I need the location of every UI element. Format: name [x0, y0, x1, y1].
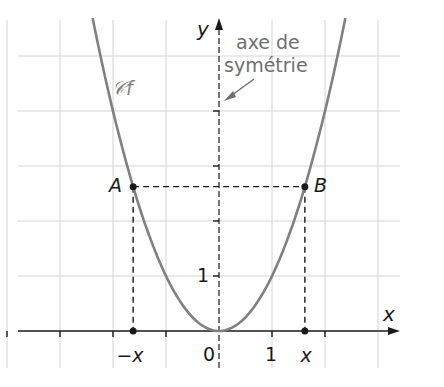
x-tick-label-1: 1 — [265, 343, 277, 365]
y-axis-arrow-icon — [215, 18, 223, 30]
minus-x-label: −x — [116, 344, 144, 366]
y-axis-label: y — [196, 17, 210, 41]
axes — [7, 18, 400, 368]
point-plus-x — [301, 328, 308, 335]
curve-label: 𝒞f — [112, 77, 136, 99]
point-A — [130, 183, 137, 190]
x-axis-label: x — [382, 302, 395, 326]
point-A-label: A — [107, 174, 122, 196]
point-B-label: B — [314, 174, 327, 196]
grid — [7, 20, 400, 368]
annotation-line-1: axe de — [236, 31, 300, 53]
annotation-arrowhead-icon — [224, 91, 236, 101]
point-minus-x — [130, 328, 137, 335]
point-B — [301, 183, 308, 190]
x-axis-arrow-icon — [388, 327, 400, 335]
parabola-figure: 𝒞f y x 0 1 1 A B −x x axe de symétrie — [0, 0, 444, 387]
y-tick-label-1: 1 — [197, 264, 209, 286]
x-label: x — [299, 344, 312, 366]
origin-label: 0 — [203, 343, 215, 365]
annotation-line-2: symétrie — [224, 54, 308, 76]
